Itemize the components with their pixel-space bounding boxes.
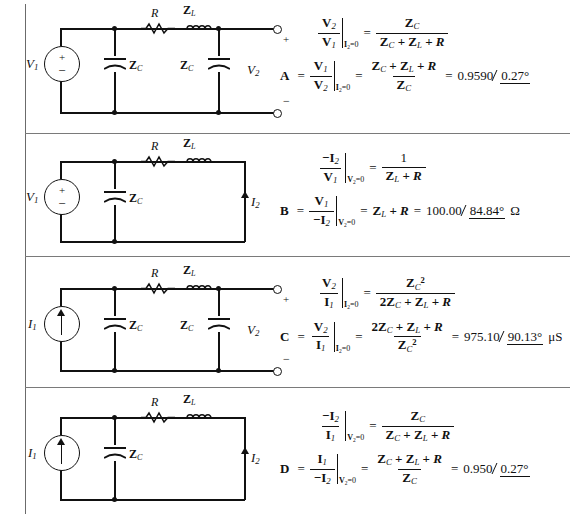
source-label: V1 [26, 189, 38, 205]
capacitor-label-left: ZC [129, 318, 142, 333]
capacitor-icon [104, 191, 126, 204]
parameter-label: B [280, 203, 292, 219]
source-minus-sign: − [45, 64, 79, 77]
result-angle-value: 84.84° [469, 203, 505, 219]
eq2-equals-2: = [350, 68, 367, 84]
equation-line-1: −I2 V1 V2=0 = 1 ZL + R [280, 151, 520, 185]
eq2-numerator: V2 [310, 320, 332, 337]
capacitor-icon-left [104, 318, 126, 331]
eq2-rhs-numerator: ZC + ZL + R [368, 59, 441, 76]
eq1-denominator: I1 [320, 293, 337, 311]
resistor-label: R [151, 395, 158, 410]
eq1-rhs-numerator: ZC [401, 16, 424, 33]
eq2-equals-3: = [440, 68, 457, 84]
eq1-equals: = [358, 25, 375, 41]
eq2-equals-1: = [292, 203, 309, 219]
output-voltage-label: V2 [247, 322, 259, 338]
capacitor-icon-left [104, 58, 126, 71]
table-row: I1 R ZL ZC ZC + − V2 [25, 256, 576, 387]
eq1-rhs-numerator: ZC2 [402, 276, 429, 293]
eq1-rhs-denominator: ZC + ZL + R [376, 33, 449, 51]
resistor-label: R [151, 139, 158, 154]
eq2-denominator: −I2 [309, 211, 334, 229]
eq2-rhs-denominator: ZC [393, 76, 416, 94]
eq1-equals: = [364, 160, 381, 176]
capacitor-icon-right [208, 58, 230, 71]
eq2-denominator: I1 [312, 336, 329, 354]
current-source-icon [44, 435, 80, 471]
output-voltage-label: V2 [247, 62, 259, 78]
output-terminal-minus-icon [273, 367, 282, 376]
eq2-denominator: −I2 [310, 469, 335, 487]
eq1-rhs-denominator: ZL + R [382, 167, 426, 185]
eq1-numerator: −I2 [318, 409, 343, 426]
capacitor-icon [104, 447, 126, 460]
table-row: + − V1 R ZL ZC [25, 0, 576, 133]
source-plus-sign: + [45, 185, 79, 196]
eq2-equals-2: = [355, 203, 372, 219]
capacitor-label: ZC [129, 191, 142, 206]
result-angle-symbol: 84.84° [462, 203, 505, 219]
eq1-denominator: V1 [320, 168, 342, 186]
eq2-equals-1: = [292, 68, 309, 84]
result-angle-value: 90.13° [507, 329, 543, 345]
capacitor-label-right: ZC [180, 318, 193, 333]
eq1-condition: V2=0 [347, 175, 364, 186]
equation-line-2: C = V2 I1 I2=0 = 2ZC + ZL + R ZC2 = 975.… [280, 320, 562, 355]
equation-block-c: V2 I1 I2=0 = ZC2 2ZC + ZL + R C = V2 I1 [280, 276, 562, 354]
current-arrow-i2-icon [244, 195, 246, 208]
eq1-numerator: V2 [318, 16, 340, 33]
eq2-condition: V2=0 [339, 476, 356, 487]
circuit-diagram-a: + − V1 R ZL ZC [25, 0, 313, 130]
source-label: V1 [26, 56, 38, 72]
eq1-numerator: V2 [318, 276, 340, 293]
capacitor-icon-right [208, 318, 230, 331]
circuit-diagram-c: I1 R ZL ZC ZC + − V2 [25, 256, 313, 386]
inductor-icon [183, 21, 215, 34]
equation-block-a: V2 V1 I2=0 = ZC ZC + ZL + R A = V1 V2 [280, 16, 530, 94]
equation-line-1: −I2 I1 V2=0 = ZC ZC + ZL + R [280, 409, 530, 443]
output-current-label: I2 [251, 194, 260, 210]
source-plus-sign: + [45, 52, 79, 63]
eq2-rhs-denominator: ZC [398, 469, 421, 487]
eq2-equals-3: = [447, 329, 464, 345]
eq2-equals-2: = [356, 461, 373, 477]
result-magnitude: 0.9590 [458, 68, 494, 84]
resistor-icon [141, 282, 175, 295]
result-unit: μS [543, 329, 562, 345]
eq2-numerator: V1 [310, 59, 332, 76]
eq1-equals: = [358, 285, 375, 301]
voltage-source-icon: + − [44, 179, 80, 215]
result-magnitude: 100.00 [426, 203, 462, 219]
eq1-denominator: V1 [318, 33, 340, 51]
source-label: I1 [28, 316, 37, 332]
inductor-icon [183, 410, 215, 423]
equation-line-2: B = V1 −I2 V2=0 = ZL + R = 100.00 84.84°… [280, 194, 520, 228]
eq1-equals: = [364, 418, 381, 434]
resistor-icon [141, 155, 175, 168]
eq2-rhs-numerator: ZC + ZL + R [373, 452, 446, 469]
eq2-condition: I2=0 [336, 83, 350, 94]
output-current-label: I2 [251, 450, 260, 466]
figure-table: + − V1 R ZL ZC [0, 0, 576, 518]
parameter-label: D [280, 461, 292, 477]
output-terminal-minus-icon [273, 109, 282, 118]
table-row: + − V1 R ZL ZC I2 −I2 [25, 133, 576, 256]
capacitor-label: ZC [129, 447, 142, 462]
eq2-numerator: V1 [311, 194, 333, 211]
equation-block-d: −I2 I1 V2=0 = ZC ZC + ZL + R D = I1 −I2 [280, 409, 530, 487]
result-angle-value: 0.27° [500, 68, 530, 84]
current-source-icon [44, 306, 80, 342]
eq2-rhs-numerator: 2ZC + ZL + R [368, 320, 447, 337]
circuit-diagram-b: + − V1 R ZL ZC I2 [25, 133, 313, 263]
eq1-denominator: I1 [322, 426, 339, 444]
eq1-rhs-denominator: ZC + ZL + R [382, 426, 455, 444]
eq2-equals-3: = [409, 203, 426, 219]
eq2-numerator: I1 [313, 452, 330, 469]
source-label: I1 [28, 445, 37, 461]
capacitor-label-left: ZC [129, 58, 142, 73]
eq2-equals-1: = [292, 461, 309, 477]
eq2-equals-3: = [446, 461, 463, 477]
parameter-label: A [280, 68, 292, 84]
resistor-label: R [151, 266, 158, 281]
